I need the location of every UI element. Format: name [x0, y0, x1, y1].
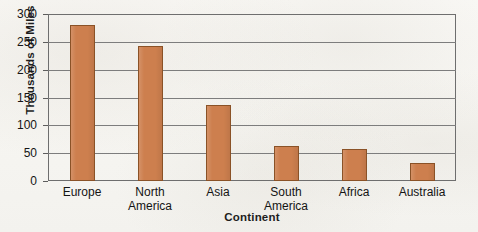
bar — [138, 46, 163, 181]
y-axis-tick-label: 250 — [3, 36, 37, 48]
x-axis-category-label: Asia — [184, 186, 252, 200]
x-axis-category-label-line: Europe — [48, 186, 116, 200]
y-axis-tick-label: 100 — [3, 119, 37, 131]
x-axis-category-label-line: North — [116, 186, 184, 200]
gridline — [48, 42, 456, 43]
gridline — [48, 153, 456, 154]
gridline — [48, 98, 456, 99]
bar — [274, 146, 299, 181]
x-axis-category-label: Australia — [388, 186, 456, 200]
y-axis-tick-mark — [43, 181, 48, 182]
x-axis-category-label-line: Africa — [320, 186, 388, 200]
x-axis-category-label-line: Asia — [184, 186, 252, 200]
x-axis-category-label: NorthAmerica — [116, 186, 184, 213]
bar-chart-figure: Thousands of Miles 050100150200250300 Eu… — [0, 0, 478, 232]
gridline — [48, 125, 456, 126]
x-axis-category-label-line: Australia — [388, 186, 456, 200]
y-axis-tick-label: 300 — [3, 8, 37, 20]
gridline — [48, 70, 456, 71]
bar — [206, 105, 231, 181]
y-axis-tick-label: 200 — [3, 64, 37, 76]
bar — [342, 149, 367, 181]
x-axis-title: Continent — [48, 211, 456, 223]
x-axis-category-label: SouthAmerica — [252, 186, 320, 213]
y-axis-tick-mark — [43, 14, 48, 15]
x-axis-category-label-line: South — [252, 186, 320, 200]
x-axis-category-label: Africa — [320, 186, 388, 200]
y-axis-tick-label: 0 — [3, 175, 37, 187]
bar — [410, 163, 435, 181]
x-axis-category-label: Europe — [48, 186, 116, 200]
y-axis-tick-label: 150 — [3, 92, 37, 104]
y-axis-tick-label: 50 — [3, 147, 37, 159]
bar — [70, 25, 95, 181]
